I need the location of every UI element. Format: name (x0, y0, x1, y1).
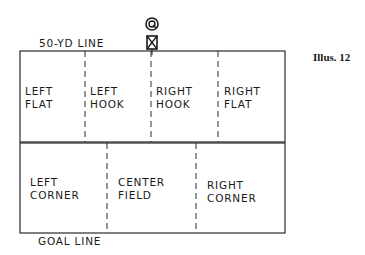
zone-left-hook: LEFT HOOK (90, 85, 125, 110)
zone-right-flat: RIGHT FLAT (224, 85, 261, 110)
box-x-icon (147, 36, 157, 55)
goal-line-label: GOAL LINE (38, 235, 101, 247)
zone-left-flat: LEFT FLAT (25, 85, 53, 110)
zone-right-hook: RIGHT HOOK (156, 85, 193, 110)
zone-right-corner: RIGHT CORNER (207, 179, 256, 204)
fifty-yard-line-label: 50-YD LINE (39, 37, 104, 49)
circle-q-icon (146, 18, 158, 30)
illustration-label: Illus. 12 (313, 51, 350, 63)
zone-center-field: CENTER FIELD (118, 176, 165, 201)
zone-left-corner: LEFT CORNER (30, 176, 79, 201)
